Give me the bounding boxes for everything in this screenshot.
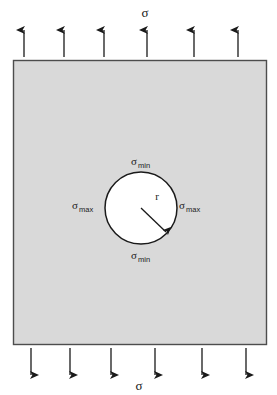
- diagram-canvas: σ σ σ min σ min σ max σ max r: [0, 0, 277, 395]
- top-stress-arrows: [24, 30, 238, 57]
- radius-label: r: [155, 190, 159, 202]
- applied-stress-bottom-label: σ: [135, 378, 142, 393]
- sigma-symbol: σ: [179, 199, 185, 211]
- sigma-symbol: σ: [131, 249, 137, 261]
- sigma-subscript-min: min: [138, 255, 150, 264]
- sigma-symbol: σ: [131, 155, 137, 167]
- applied-stress-top-label: σ: [141, 5, 148, 20]
- sigma-subscript-min: min: [138, 161, 150, 170]
- sigma-subscript-max: max: [186, 205, 200, 214]
- sigma-subscript-max: max: [79, 205, 93, 214]
- sigma-symbol: σ: [72, 199, 78, 211]
- stress-concentration-diagram: σ σ σ min σ min σ max σ max r: [0, 0, 277, 395]
- bottom-stress-arrows: [31, 348, 246, 375]
